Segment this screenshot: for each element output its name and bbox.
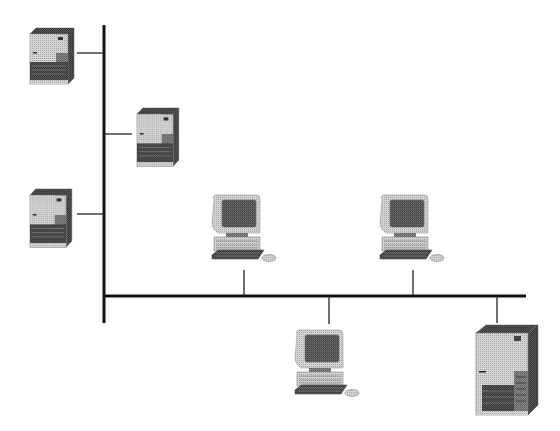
desktop-pc-icon — [295, 330, 359, 397]
main-server-icon — [476, 325, 538, 415]
desktop-pc-icon — [380, 195, 444, 262]
server-icon — [30, 189, 72, 247]
desktop-pc-icon — [212, 195, 276, 262]
server-icon — [137, 108, 179, 166]
server-icon — [30, 28, 74, 84]
network-diagram — [0, 0, 560, 431]
